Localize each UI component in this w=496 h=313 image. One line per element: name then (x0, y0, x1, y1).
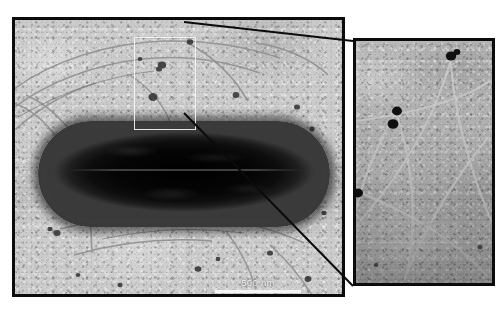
overview-panel: 500 nm (12, 17, 345, 297)
scalebar-500nm: 500 nm (215, 278, 301, 293)
bacterium-midline (66, 169, 304, 171)
region-of-interest-box (134, 37, 196, 130)
scalebar-500nm-rule (215, 290, 301, 293)
inset-panel: 100 nm (356, 41, 492, 283)
tem-micrograph-figure: 500 nm (0, 0, 496, 313)
scalebar-500nm-label: 500 nm (215, 278, 301, 288)
bacterium-internal-texture (52, 133, 316, 215)
inset-vignette (356, 41, 492, 283)
